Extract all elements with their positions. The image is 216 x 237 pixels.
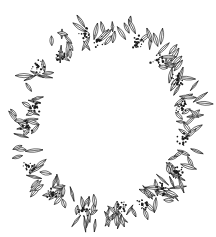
leaf-group bbox=[7, 14, 213, 232]
wreath-illustration bbox=[0, 0, 216, 237]
